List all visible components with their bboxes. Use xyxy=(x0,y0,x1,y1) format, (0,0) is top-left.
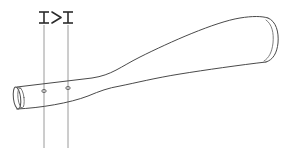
dimension-annotation xyxy=(39,12,73,23)
dimension-comparator-icon xyxy=(52,12,61,23)
bat-top-profile xyxy=(17,17,268,88)
dimension-left-terminator-icon xyxy=(39,12,49,23)
technical-line-drawing xyxy=(0,0,290,160)
drawing-canvas: I > I Tapered bat with hollow tube handl… xyxy=(0,0,290,160)
dimension-right-terminator-icon xyxy=(63,12,73,23)
dimension-extension-lines xyxy=(44,25,68,148)
barrel-tip-inner-line xyxy=(264,20,273,61)
bat-bottom-profile xyxy=(17,62,266,109)
barrel-tip-cap xyxy=(266,18,278,62)
bat-object xyxy=(12,17,278,110)
